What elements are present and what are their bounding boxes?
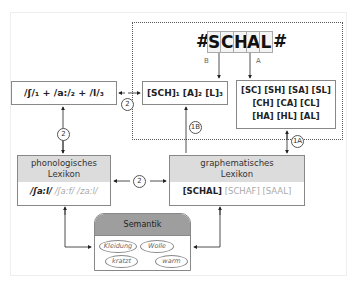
route-marker-1b: 1B (189, 121, 202, 134)
route-marker-1a: 1A (291, 135, 304, 148)
route-marker-2: 2 (133, 175, 146, 188)
route-marker-2: 2 (121, 98, 134, 111)
route-marker-2: 2 (57, 128, 70, 141)
